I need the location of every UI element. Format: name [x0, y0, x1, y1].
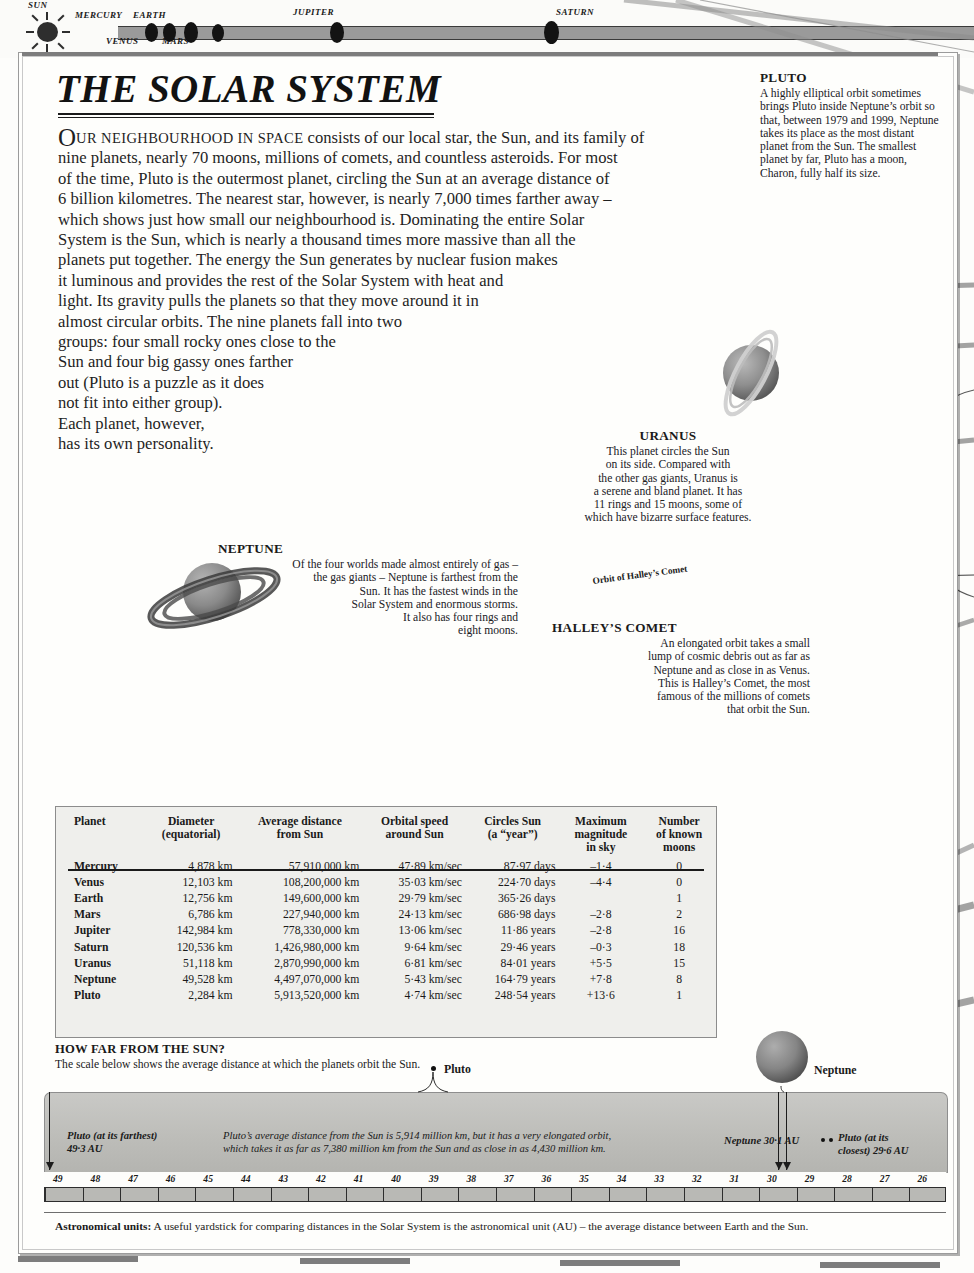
cell-moons: 2 [642, 907, 716, 923]
intro-line-9: almost circular orbits. The nine planets… [58, 312, 728, 332]
strip-label-saturn: SATURN [556, 7, 594, 17]
cell-distance: 227,940,000 km [237, 907, 364, 923]
strip-dot-jupiter [330, 22, 344, 43]
intro-dropcap: O [58, 124, 76, 151]
ruler-tick-mark [271, 1188, 272, 1201]
bottom-edge-strip-3 [560, 1260, 680, 1266]
halley-line-0: An elongated orbit takes a small [552, 637, 810, 650]
table-row: Earth12,756 km149,600,000 km29·79 km/sec… [56, 890, 716, 906]
intro-line-7: it luminous and provides the rest of the… [58, 271, 728, 291]
cell-diameter: 120,536 km [146, 939, 237, 955]
neptune-line-5: eight moons. [218, 624, 518, 637]
halley-line-3: This is Halley’s Comet, the most [552, 677, 810, 690]
cell-speed: 9·64 km/sec [363, 939, 466, 955]
pluto-caption: PLUTO A highly elliptical orbit sometime… [760, 70, 945, 180]
cell-moons: 16 [642, 923, 716, 939]
halley-caption-body: An elongated orbit takes a small lump of… [552, 637, 810, 717]
cell-planet: Mars [56, 907, 146, 923]
ruler-tick-label: 47 [128, 1173, 138, 1184]
ruler-tick-mark [646, 1188, 647, 1201]
pluto-caption-heading: PLUTO [760, 70, 945, 86]
strip-dot-venus [163, 23, 176, 42]
strip-dot-mercury [145, 23, 158, 42]
cell-speed: 29·79 km/sec [363, 890, 466, 906]
bottom-edge-strip-4 [820, 1262, 940, 1268]
table-row: Neptune49,528 km4,497,070,000 km5·43 km/… [56, 971, 716, 987]
th-distance: Average distancefrom Sun [237, 807, 364, 858]
cell-speed: 5·43 km/sec [363, 971, 466, 987]
cell-distance: 1,426,980,000 km [237, 939, 364, 955]
howfar-heading: HOW FAR FROM THE SUN? [55, 1042, 475, 1057]
cell-magnitude: –4·4 [559, 874, 642, 890]
cell-period: 11·86 years [466, 923, 560, 939]
table-header-rule [68, 869, 704, 871]
footnote-label: Astronomical units: [55, 1220, 151, 1232]
ruler-tick-label: 37 [504, 1173, 514, 1184]
cell-diameter: 12,103 km [146, 874, 237, 890]
cell-planet: Saturn [56, 939, 146, 955]
cell-diameter: 4,878 km [146, 858, 237, 874]
scale-arrowhead-neptune [775, 1162, 783, 1170]
uranus-line-4: 11 rings and 15 moons, some of [548, 498, 788, 511]
cell-diameter: 142,984 km [146, 923, 237, 939]
sheet-top-shadow [22, 52, 938, 56]
band-center-note-line1: Pluto’s average distance from the Sun is… [223, 1129, 611, 1142]
cell-magnitude: +7·8 [559, 971, 642, 987]
ruler-tick-label: 33 [654, 1173, 664, 1184]
cell-planet: Jupiter [56, 923, 146, 939]
neptune-line-3: Solar System and enormous storms. [218, 598, 518, 611]
cell-diameter: 51,118 km [146, 955, 237, 971]
band-pluto-closest-dot [829, 1138, 833, 1142]
neptune-scale-planet-image [756, 1031, 808, 1083]
cell-planet: Venus [56, 874, 146, 890]
planet-data-table: Planet Diameter(equatorial) Average dist… [55, 806, 717, 1038]
cell-period: 87·97 days [466, 858, 560, 874]
th-magnitude: Maximummagnitudein sky [559, 807, 642, 858]
strip-dot-saturn [544, 21, 559, 44]
cell-magnitude [559, 890, 642, 906]
cell-speed: 47·89 km/sec [363, 858, 466, 874]
th-diameter: Diameter(equatorial) [146, 807, 237, 858]
ruler-tick-mark [308, 1188, 309, 1201]
scale-pluto-label: Pluto [444, 1062, 471, 1077]
band-left-note: Pluto (at its farthest) 49·3 AU [67, 1129, 157, 1155]
table-header-row: Planet Diameter(equatorial) Average dist… [56, 807, 716, 858]
ruler-tick-mark [759, 1188, 760, 1201]
cell-distance: 149,600,000 km [237, 890, 364, 906]
ruler-tick-mark [120, 1188, 121, 1201]
scale-arrow-pluto-near [786, 1092, 787, 1170]
cell-period: 224·70 days [466, 874, 560, 890]
cell-planet: Uranus [56, 955, 146, 971]
cell-period: 248·54 years [466, 988, 560, 1004]
ruler-tick-mark [534, 1188, 535, 1201]
cell-planet: Mercury [56, 858, 146, 874]
th-period: Circles Sun(a “year”) [466, 807, 560, 858]
table-body: Mercury4,878 km57,910,000 km47·89 km/sec… [56, 858, 716, 1004]
footnote: Astronomical units: A useful yardstick f… [55, 1220, 945, 1232]
ruler-tick-label: 41 [354, 1173, 364, 1184]
uranus-line-2: the other gas giants, Uranus is [548, 472, 788, 485]
distance-scale-band: Pluto (at its farthest) 49·3 AU Pluto’s … [44, 1092, 948, 1173]
ruler-tick-mark [383, 1188, 384, 1201]
intro-line-0-rest: consists of our local star, the Sun, and… [303, 128, 644, 147]
au-ruler: 4948474645444342414039383736353433323130… [44, 1172, 946, 1204]
bottom-edge-strip-1 [18, 1256, 138, 1262]
neptune-line-2: Sun. It has the fastest winds in the [218, 585, 518, 598]
band-center-note: Pluto’s average distance from the Sun is… [223, 1129, 611, 1155]
bottom-edge-strip-2 [300, 1258, 410, 1264]
cell-diameter: 49,528 km [146, 971, 237, 987]
ruler-tick-mark [571, 1188, 572, 1201]
ruler-tick-label: 40 [391, 1173, 401, 1184]
cell-period: 164·79 years [466, 971, 560, 987]
cell-speed: 6·81 km/sec [363, 955, 466, 971]
cell-speed: 13·06 km/sec [363, 923, 466, 939]
ruler-tick-label: 42 [316, 1173, 326, 1184]
uranus-line-3: a serene and bland planet. It has [548, 485, 788, 498]
ruler-tick-label: 43 [279, 1173, 289, 1184]
cell-distance: 2,870,990,000 km [237, 955, 364, 971]
scale-arrow-pluto-far [49, 1092, 50, 1170]
ruler-tick-mark [458, 1188, 459, 1201]
ruler-tick-label: 44 [241, 1173, 251, 1184]
howfar-body: The scale below shows the average distan… [55, 1058, 475, 1071]
cell-magnitude: –0·3 [559, 939, 642, 955]
